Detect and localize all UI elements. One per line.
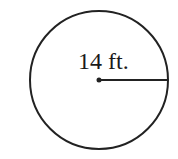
center-point [97, 78, 102, 83]
radius-label: 14 ft. [78, 48, 129, 74]
circle-diagram: 14 ft. [0, 0, 178, 159]
